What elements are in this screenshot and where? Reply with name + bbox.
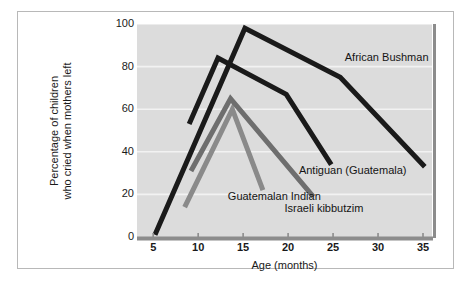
x-axis-tick-label: 30 <box>372 242 384 253</box>
y-axis-title: Percentage of children who cried when mo… <box>48 31 74 231</box>
series-label: Antiguan (Guatemala) <box>299 165 407 176</box>
y-axis-tick-labels: 020406080100 <box>104 24 134 237</box>
x-axis-tick-label: 25 <box>327 242 339 253</box>
x-axis-tick-label: 10 <box>192 242 204 253</box>
y-axis-tick-label: 40 <box>108 146 134 157</box>
y-axis-title-line1: Percentage of children <box>48 31 61 231</box>
x-axis-title: Age (months) <box>137 259 432 271</box>
x-axis-tick-label: 35 <box>417 242 429 253</box>
plot-panel: African BushmanAntiguan (Guatemala)Guate… <box>137 24 432 237</box>
x-axis-tick-label: 5 <box>150 242 156 253</box>
y-axis-tick-label: 100 <box>108 18 134 29</box>
y-axis-tick-label: 60 <box>108 103 134 114</box>
series-label: Israeli kibbutzim <box>285 203 364 214</box>
y-axis-tick-label: 20 <box>108 188 134 199</box>
x-axis-tick-label: 20 <box>282 242 294 253</box>
y-axis-tick-label: 0 <box>108 231 134 242</box>
figure-root: 020406080100 African BushmanAntiguan (Gu… <box>0 0 471 284</box>
y-axis-title-line2: who cried when mothers left <box>61 31 74 231</box>
series-label: African Bushman <box>345 52 429 63</box>
x-axis-tick-label: 15 <box>237 242 249 253</box>
series-label: Guatemalan Indian <box>228 191 321 202</box>
x-axis-tick-labels: 5101520253035 <box>137 242 432 258</box>
y-axis-tick-label: 80 <box>108 61 134 72</box>
